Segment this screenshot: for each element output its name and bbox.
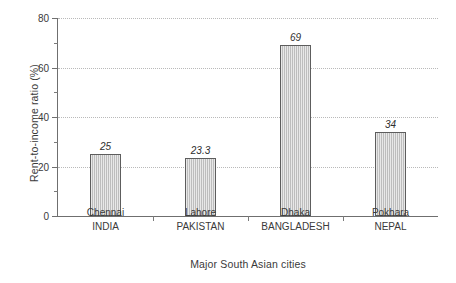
- y-tick-major: [52, 68, 58, 69]
- bar: 34: [375, 132, 406, 216]
- category-city: Pokhara: [331, 206, 451, 220]
- plot-area: 020406080 2523.36934: [58, 18, 438, 216]
- y-tick-major: [52, 117, 58, 118]
- bar: 69: [280, 45, 311, 216]
- y-tick-minor: [54, 43, 58, 44]
- gridline: [58, 117, 438, 118]
- y-tick-minor: [54, 142, 58, 143]
- y-tick-major: [52, 18, 58, 19]
- y-tick-major: [52, 167, 58, 168]
- x-axis-title: Major South Asian cities: [58, 258, 438, 270]
- bar-value-label: 69: [290, 32, 301, 43]
- y-tick-minor: [54, 191, 58, 192]
- y-axis-title: Rent-to-income ratio (%): [28, 23, 40, 223]
- y-tick-label: 60: [38, 62, 49, 73]
- y-tick-minor: [54, 92, 58, 93]
- bar-value-label: 25: [100, 141, 111, 152]
- y-tick-label: 80: [38, 13, 49, 24]
- y-tick-label: 20: [38, 161, 49, 172]
- bar-value-label: 34: [385, 119, 396, 130]
- bar-chart: Rent-to-income ratio (%) 020406080 2523.…: [0, 0, 456, 283]
- bar-value-label: 23.3: [191, 145, 210, 156]
- gridline: [58, 18, 438, 19]
- category-country: NEPAL: [331, 220, 451, 234]
- gridline: [58, 68, 438, 69]
- x-category-label: PokharaNEPAL: [331, 206, 451, 233]
- y-tick-label: 40: [38, 112, 49, 123]
